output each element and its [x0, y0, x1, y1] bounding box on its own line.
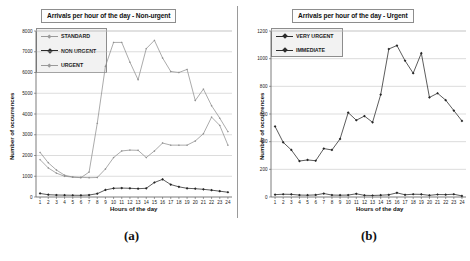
x-tick-label: 5	[71, 200, 74, 205]
series-line-immediate	[275, 193, 462, 196]
data-point	[129, 149, 131, 151]
data-point	[452, 193, 455, 196]
x-tick-label: 10	[346, 200, 352, 205]
data-point	[282, 193, 285, 196]
y-tick-label: 200	[260, 167, 268, 172]
x-tick-label: 3	[55, 200, 58, 205]
x-tick-label: 23	[217, 200, 223, 205]
series-line-urgent	[40, 117, 228, 178]
data-point	[112, 187, 115, 190]
x-tick-label: 1	[39, 200, 42, 205]
x-tick-label: 11	[119, 200, 124, 205]
data-point	[88, 177, 90, 179]
data-point	[339, 194, 342, 197]
data-point	[218, 190, 221, 193]
data-point	[387, 48, 390, 51]
data-point	[379, 93, 382, 96]
x-tick-label: 17	[403, 200, 409, 205]
x-tick-label: 3	[290, 200, 293, 205]
y-tick-label: 5000	[22, 91, 33, 96]
data-point	[104, 65, 106, 67]
data-point	[178, 72, 180, 74]
x-tick-label: 14	[144, 200, 150, 205]
y-tick-label: 6000	[22, 70, 33, 75]
data-point	[210, 189, 213, 192]
x-tick-label: 24	[459, 200, 465, 205]
y-tick-label: 7000	[22, 49, 33, 54]
data-point	[355, 192, 358, 195]
data-point	[178, 144, 180, 146]
panel-a-non-urgent: Arrivals per hour of the day - Non-urgen…	[0, 0, 238, 261]
y-tick-label: 1000	[257, 56, 268, 61]
data-point	[306, 159, 309, 162]
x-tick-label: 8	[96, 200, 99, 205]
x-tick-label: 9	[339, 200, 342, 205]
data-point	[137, 187, 140, 190]
x-tick-label: 18	[176, 200, 182, 205]
data-point	[428, 194, 431, 197]
data-point	[47, 193, 50, 196]
x-tick-label: 24	[225, 200, 231, 205]
data-point	[331, 194, 334, 197]
y-tick-label: 3000	[22, 132, 33, 137]
data-point	[63, 194, 66, 197]
data-point	[396, 44, 399, 47]
data-point	[71, 194, 74, 197]
data-point	[186, 68, 188, 70]
data-point	[186, 187, 189, 190]
x-tick-label: 7	[88, 200, 91, 205]
data-point	[420, 193, 423, 196]
x-tick-label: 23	[451, 200, 457, 205]
x-tick-label: 2	[47, 200, 50, 205]
figure-two-panel-charts: Arrivals per hour of the day - Non-urgen…	[0, 0, 470, 261]
data-point	[170, 144, 172, 146]
x-tick-label: 12	[127, 200, 133, 205]
data-point	[129, 187, 132, 190]
y-tick-label: 800	[260, 84, 268, 89]
x-tick-label: 5	[306, 200, 309, 205]
y-tick-label: 1000	[22, 174, 33, 179]
data-point	[274, 193, 277, 196]
data-point	[39, 192, 42, 195]
data-point	[306, 194, 309, 197]
x-tick-label: 6	[314, 200, 317, 205]
data-point	[347, 194, 350, 197]
x-tick-label: 22	[443, 200, 449, 205]
x-tick-label: 7	[323, 200, 326, 205]
data-point	[314, 194, 317, 197]
data-point	[290, 193, 293, 196]
x-tick-label: 12	[362, 200, 368, 205]
data-point	[120, 187, 123, 190]
data-point	[436, 193, 439, 196]
plot-area-a: 0100020003000400050006000700080001234567…	[0, 0, 238, 261]
x-tick-label: 4	[63, 200, 66, 205]
data-point	[387, 193, 390, 196]
data-point	[55, 194, 58, 197]
data-point	[113, 41, 115, 43]
x-tick-label: 13	[370, 200, 376, 205]
y-tick-label: 4000	[22, 112, 33, 117]
x-tick-label: 21	[435, 200, 441, 205]
x-tick-label: 15	[386, 200, 392, 205]
x-tick-label: 16	[394, 200, 400, 205]
data-point	[363, 194, 366, 197]
data-point	[274, 125, 277, 128]
x-tick-label: 21	[201, 200, 207, 205]
x-tick-label: 17	[168, 200, 174, 205]
x-tick-label: 10	[111, 200, 117, 205]
data-point	[194, 187, 197, 190]
x-tick-label: 14	[378, 200, 384, 205]
series-line-standard	[40, 40, 228, 177]
plot-area-b: 0200400600800100012001234567891011121314…	[238, 0, 470, 261]
x-tick-label: 11	[354, 200, 359, 205]
x-tick-label: 19	[419, 200, 425, 205]
data-point	[396, 192, 399, 195]
x-tick-label: 9	[104, 200, 107, 205]
x-tick-label: 2	[282, 200, 285, 205]
data-point	[428, 96, 431, 99]
data-point	[104, 189, 107, 192]
data-point	[80, 194, 83, 197]
data-point	[371, 194, 374, 197]
panel-b-urgent: Arrivals per hour of the day - Urgent Nu…	[238, 0, 470, 261]
data-point	[379, 194, 382, 197]
